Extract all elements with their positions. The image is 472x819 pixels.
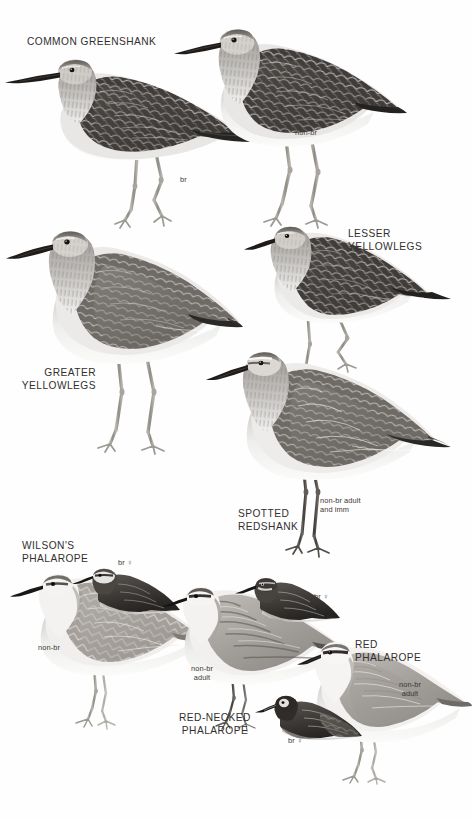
- label-wilsons-br-female: br ♀: [118, 558, 133, 567]
- label-greenshank-nonbr: non-br: [295, 128, 317, 137]
- label-red-phalarope-br-female: br ♀: [288, 736, 303, 745]
- rednecked-br-female-artwork: [244, 578, 349, 636]
- eye-patch: [323, 652, 348, 653]
- eye: [64, 240, 69, 245]
- eye: [194, 594, 198, 598]
- greater-yellowlegs-artwork: [14, 230, 244, 455]
- bill: [174, 43, 221, 55]
- bill: [6, 245, 53, 259]
- species-name-red-phalarope: RED PHALAROPE: [355, 639, 421, 664]
- species-name-lesser-yellowlegs: LESSER YELLOWLEGS: [348, 228, 422, 253]
- eye: [51, 582, 55, 586]
- red-phalarope-br-female-artwork: [262, 696, 372, 754]
- eye: [70, 68, 75, 73]
- legs: [115, 154, 171, 228]
- bird-greater-yellowlegs: [14, 230, 244, 455]
- eye: [328, 650, 332, 654]
- legs: [264, 138, 327, 228]
- legs: [76, 667, 115, 729]
- bill: [244, 239, 275, 250]
- bill: [10, 586, 43, 597]
- eye-stripe: [95, 575, 113, 576]
- species-name-greater-yellowlegs: GREATER YELLOWLEGS: [0, 367, 96, 392]
- legs: [98, 354, 164, 454]
- species-name-red-necked-phalarope: RED-NECKED PHALAROPE: [150, 712, 280, 737]
- bird-common-greenshank-nonbreeding: [178, 28, 408, 240]
- eye: [98, 574, 101, 577]
- label-rednecked-br-female: br ♀: [314, 592, 329, 601]
- field-guide-plate: br: [0, 0, 472, 819]
- label-wilsons-nonbr: non-br: [38, 643, 60, 652]
- species-name-spotted-redshank: SPOTTED REDSHANK: [238, 508, 298, 533]
- eye: [259, 361, 264, 365]
- species-name-wilsons-phalarope: WILSON'S PHALAROPE: [22, 540, 88, 565]
- bill: [5, 73, 60, 84]
- species-name-common-greenshank: COMMON GREENSHANK: [27, 36, 156, 49]
- bird-red-phalarope-br-female: [262, 696, 372, 754]
- eye-stripe: [46, 584, 68, 585]
- label-rednecked-nonbr-adult: non-br adult: [178, 664, 226, 682]
- eye: [231, 38, 236, 43]
- eye-patch: [189, 596, 211, 597]
- label-red-phalarope-nonbr-adult: non-br adult: [386, 680, 434, 698]
- label-spotted-redshank-note: non-br adult and imm: [320, 496, 361, 514]
- greenshank-nonbr-artwork: [178, 28, 408, 240]
- bill-base-pale: [264, 705, 276, 710]
- eye: [285, 234, 290, 238]
- bird-red-necked-phalarope-br-female: [244, 578, 349, 636]
- eye: [282, 701, 285, 704]
- eye: [262, 584, 264, 586]
